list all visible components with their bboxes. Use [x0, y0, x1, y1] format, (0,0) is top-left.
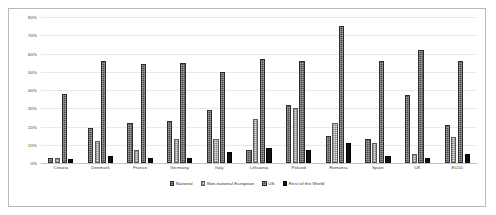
bar[interactable]: [134, 150, 139, 163]
y-axis-tick-labels: 80%70%60%50%40%30%20%10%0%: [13, 17, 39, 163]
bar[interactable]: [306, 150, 311, 163]
x-axis-label: France: [120, 165, 160, 177]
axis-baseline: [41, 163, 477, 164]
y-axis-tick-label: 40%: [28, 88, 37, 93]
y-axis-tick-label: 10%: [28, 142, 37, 147]
bar-group: [120, 17, 160, 163]
x-axis-label: Germany: [160, 165, 200, 177]
bar[interactable]: [372, 143, 377, 163]
bar-group: [279, 17, 319, 163]
bar[interactable]: [167, 121, 172, 163]
x-axis-label: Spain: [358, 165, 398, 177]
bar[interactable]: [412, 154, 417, 163]
x-axis-label: EU10: [437, 165, 477, 177]
x-axis-category-labels: CroatiaDenmarkFranceGermanyItalyLithuani…: [41, 165, 477, 177]
chart-plot-wrapper: 80%70%60%50%40%30%20%10%0% CroatiaDenmar…: [9, 9, 485, 206]
bar[interactable]: [180, 63, 185, 163]
bar[interactable]: [108, 156, 113, 163]
legend-label: National: [176, 181, 193, 186]
x-axis-label: Italy: [200, 165, 240, 177]
bar[interactable]: [465, 154, 470, 163]
bar[interactable]: [88, 128, 93, 163]
legend-swatch-icon: [170, 181, 174, 185]
x-axis-label: Lithuania: [239, 165, 279, 177]
bar[interactable]: [385, 156, 390, 163]
legend-label: US: [268, 181, 274, 186]
bar-group: [200, 17, 240, 163]
legend-swatch-icon: [262, 181, 266, 185]
legend-label: Non-national European: [207, 181, 254, 186]
bar-group: [398, 17, 438, 163]
bar[interactable]: [445, 125, 450, 163]
legend-swatch-icon: [283, 181, 287, 185]
legend-label: Rest of the World: [289, 181, 325, 186]
bar[interactable]: [141, 64, 146, 163]
bar[interactable]: [405, 95, 410, 163]
bar[interactable]: [207, 110, 212, 163]
bar[interactable]: [227, 152, 232, 163]
bar[interactable]: [55, 158, 60, 163]
y-axis-tick-label: 0%: [30, 161, 37, 166]
bar[interactable]: [418, 50, 423, 163]
bar[interactable]: [458, 61, 463, 163]
bar[interactable]: [187, 158, 192, 163]
legend-swatch-icon: [201, 181, 205, 185]
bar-group: [318, 17, 358, 163]
x-axis-label: UK: [398, 165, 438, 177]
x-axis-label: Croatia: [41, 165, 81, 177]
bar-groups: [41, 17, 477, 163]
bar[interactable]: [326, 136, 331, 163]
bar[interactable]: [365, 139, 370, 163]
bar[interactable]: [299, 61, 304, 163]
y-axis-tick-label: 70%: [28, 33, 37, 38]
chart-legend: NationalNon-national EuropeanUSRest of t…: [9, 181, 485, 186]
bar-group: [81, 17, 121, 163]
bar[interactable]: [148, 158, 153, 163]
bar[interactable]: [339, 26, 344, 163]
legend-item[interactable]: National: [170, 181, 193, 186]
bar[interactable]: [101, 61, 106, 163]
bar[interactable]: [451, 137, 456, 163]
legend-item[interactable]: Rest of the World: [283, 181, 325, 186]
bar-group: [41, 17, 81, 163]
bar[interactable]: [246, 150, 251, 163]
bar-group: [437, 17, 477, 163]
legend-item[interactable]: Non-national European: [201, 181, 254, 186]
y-axis-tick-label: 30%: [28, 106, 37, 111]
bar[interactable]: [127, 123, 132, 163]
x-axis-label: Romania: [318, 165, 358, 177]
bar-group: [358, 17, 398, 163]
chart-screenshot: 80%70%60%50%40%30%20%10%0% CroatiaDenmar…: [0, 0, 496, 215]
bar[interactable]: [220, 72, 225, 163]
chart-frame: 80%70%60%50%40%30%20%10%0% CroatiaDenmar…: [8, 8, 486, 207]
y-axis-tick-label: 60%: [28, 51, 37, 56]
bar[interactable]: [346, 143, 351, 163]
bar[interactable]: [260, 59, 265, 163]
plot-area: [41, 17, 477, 163]
bar[interactable]: [286, 105, 291, 163]
x-axis-label: Poland: [279, 165, 319, 177]
bar-group: [160, 17, 200, 163]
bar[interactable]: [48, 158, 53, 163]
bar[interactable]: [174, 139, 179, 163]
bar[interactable]: [253, 119, 258, 163]
bar[interactable]: [95, 141, 100, 163]
y-axis-tick-label: 50%: [28, 69, 37, 74]
y-axis-tick-label: 20%: [28, 124, 37, 129]
bar[interactable]: [332, 123, 337, 163]
bar[interactable]: [293, 108, 298, 163]
bar-group: [239, 17, 279, 163]
bar[interactable]: [425, 158, 430, 163]
bar[interactable]: [213, 139, 218, 163]
legend-item[interactable]: US: [262, 181, 275, 186]
y-axis-tick-label: 80%: [28, 15, 37, 20]
x-axis-label: Denmark: [81, 165, 121, 177]
bar[interactable]: [62, 94, 67, 163]
bar[interactable]: [68, 159, 73, 163]
bar[interactable]: [266, 148, 271, 163]
bar[interactable]: [379, 61, 384, 163]
